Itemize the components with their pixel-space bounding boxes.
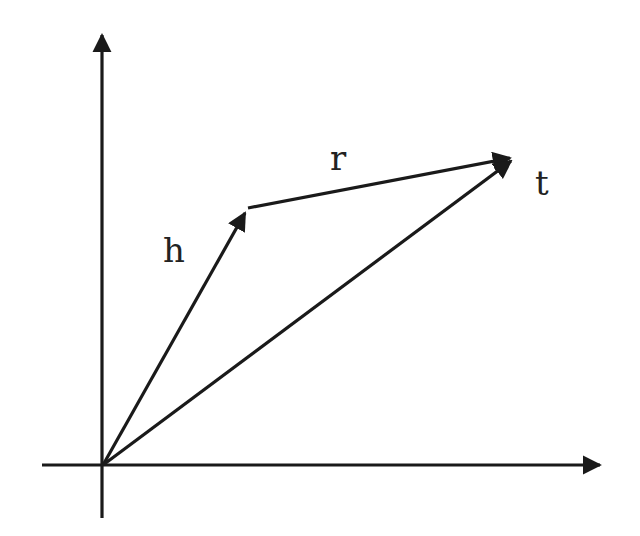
vector-t-arrow	[103, 161, 511, 465]
vector-r-label: r	[330, 138, 347, 178]
vector-t-label: t	[535, 163, 549, 203]
vector-diagram: h r t	[0, 0, 640, 536]
vector-h-label: h	[163, 230, 185, 270]
vector-r-arrow	[248, 158, 510, 208]
